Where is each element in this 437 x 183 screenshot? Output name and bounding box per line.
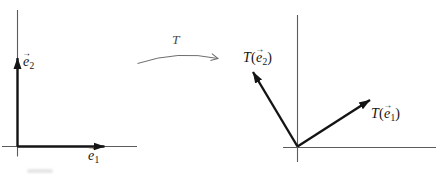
te2-func: T [243, 50, 251, 65]
vector-hat-icon: → [22, 49, 31, 58]
map-arc-arrow [138, 55, 219, 63]
te1-close-paren: ) [395, 106, 400, 121]
e1-subscript: 1 [95, 155, 100, 165]
print-artifact [27, 169, 53, 173]
vector-hat-icon: → [255, 45, 264, 54]
e1-label: →e1 [88, 148, 99, 166]
te2-vector [253, 72, 298, 147]
linear-transformation-figure: →e2 →e1 T T(→e2) T(→e1) [0, 0, 437, 183]
map-label: T [172, 33, 180, 47]
te2-close-paren: ) [267, 50, 272, 65]
te1-vector [298, 100, 371, 147]
te1-symbol: →e [384, 106, 391, 121]
e2-subscript: 2 [30, 61, 35, 71]
e1-symbol: →e [88, 148, 95, 163]
te1-label: T(→e1) [371, 106, 400, 124]
vector-hat-icon: → [87, 143, 96, 152]
te1-func: T [371, 106, 379, 121]
e2-label: →e2 [23, 54, 34, 72]
vector-hat-icon: → [383, 101, 392, 110]
te2-symbol: →e [256, 50, 263, 65]
e2-symbol: →e [23, 54, 30, 69]
te2-label: T(→e2) [243, 50, 272, 68]
figure-canvas [0, 0, 437, 183]
